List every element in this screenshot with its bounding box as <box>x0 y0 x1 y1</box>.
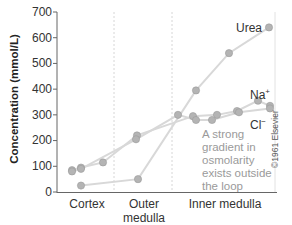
data-point <box>174 111 181 118</box>
data-point <box>77 165 84 172</box>
data-point <box>77 182 84 189</box>
data-point <box>225 50 232 57</box>
copyright-credit: ©1961 Elsevier <box>270 108 280 168</box>
y-tick-400: 400 <box>18 83 52 95</box>
data-point <box>134 176 141 183</box>
y-tick-marks <box>53 12 57 192</box>
region-label-outer-medulla: Outer medulla <box>118 197 170 225</box>
y-tick-700: 700 <box>18 6 52 18</box>
series-label-urea: Urea <box>236 22 262 34</box>
data-point <box>208 116 215 123</box>
data-point <box>132 136 139 143</box>
data-point <box>235 109 242 116</box>
y-tick-100: 100 <box>18 160 52 172</box>
region-label-outer-line2: medulla <box>118 211 170 225</box>
y-tick-500: 500 <box>18 57 52 69</box>
data-point <box>192 87 199 94</box>
data-point <box>99 159 106 166</box>
na-text: Na <box>250 88 265 102</box>
y-tick-200: 200 <box>18 134 52 146</box>
region-label-cortex: Cortex <box>62 197 112 211</box>
data-point <box>192 116 199 123</box>
region-label-inner-medulla: Inner medulla <box>180 197 270 211</box>
region-label-outer-line1: Outer <box>118 197 170 211</box>
concentration-chart: Concentration (mmol/L) 700 600 500 400 3… <box>0 0 292 225</box>
na-superscript: + <box>265 87 270 96</box>
series-label-na: Na+ <box>250 86 270 101</box>
y-tick-0: 0 <box>18 186 52 198</box>
data-point <box>68 168 75 175</box>
data-point <box>265 24 272 31</box>
y-tick-300: 300 <box>18 109 52 121</box>
y-axis-label: Concentration (mmol/L) <box>8 29 22 169</box>
cl-superscript: − <box>261 117 266 126</box>
y-tick-600: 600 <box>18 32 52 44</box>
